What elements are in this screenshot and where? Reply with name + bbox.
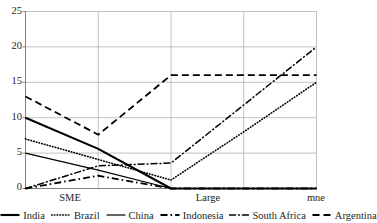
legend-label: China bbox=[129, 210, 154, 221]
legend-label: South Africa bbox=[252, 210, 305, 221]
legend-label: Indonesia bbox=[183, 210, 224, 221]
legend-item-china[interactable]: China bbox=[106, 210, 154, 221]
legend-swatch-icon bbox=[0, 211, 20, 219]
legend-item-argentina[interactable]: Argentina bbox=[312, 210, 377, 221]
legend-item-south-africa[interactable]: South Africa bbox=[229, 210, 305, 221]
chart-legend: IndiaBrazilChinaIndonesiaSouth AfricaArg… bbox=[0, 207, 377, 223]
axes bbox=[23, 12, 317, 189]
legend-swatch-icon bbox=[229, 211, 249, 219]
plot-area bbox=[0, 0, 377, 223]
legend-swatch-icon bbox=[106, 211, 126, 219]
line-chart: 25 20 15 10 5 0 SME Large mne IndiaBrazi… bbox=[0, 0, 377, 223]
legend-item-india[interactable]: India bbox=[0, 210, 45, 221]
legend-item-brazil[interactable]: Brazil bbox=[51, 210, 100, 221]
legend-swatch-icon bbox=[51, 211, 71, 219]
legend-item-indonesia[interactable]: Indonesia bbox=[160, 210, 224, 221]
legend-label: India bbox=[23, 210, 45, 221]
legend-swatch-icon bbox=[160, 211, 180, 219]
legend-label: Argentina bbox=[335, 210, 377, 221]
legend-swatch-icon bbox=[312, 211, 332, 219]
gridlines bbox=[26, 12, 317, 189]
legend-label: Brazil bbox=[74, 210, 100, 221]
